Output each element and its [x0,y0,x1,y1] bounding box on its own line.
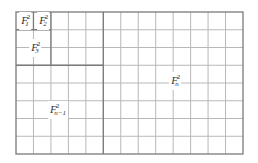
label-f2-squared: F22 [37,12,49,30]
label-sub: n [175,80,179,88]
label-f3-squared: F23 [29,39,41,57]
label-sub: 2 [43,20,47,28]
label-fn-squared: F2n [169,72,181,90]
label-fn-minus-1-squared: F2n−1 [48,101,68,119]
label-sub: 1 [25,20,29,28]
label-sub: n−1 [54,109,66,117]
label-f1-squared: F21 [19,12,31,30]
label-sub: 3 [35,47,39,55]
